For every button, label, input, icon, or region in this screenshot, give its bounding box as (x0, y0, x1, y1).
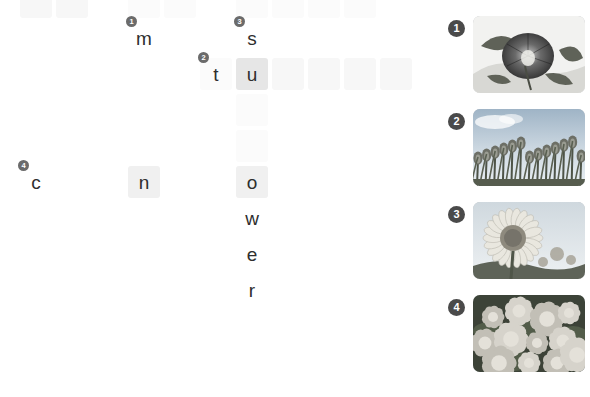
picture-clue-2: 2 (440, 109, 590, 189)
grid-cell-filled[interactable]: r (236, 274, 268, 306)
grid-cell-empty[interactable] (380, 58, 412, 90)
clue-number-badge-3: 3 (234, 16, 245, 27)
cell-letter: w (236, 202, 268, 234)
grid-cell-empty[interactable] (236, 130, 268, 162)
clue-number-badge-4: 4 (18, 160, 29, 171)
cell-letter: n (128, 166, 160, 198)
cell-letter: o (236, 166, 268, 198)
picture-clue-3: 3 (440, 202, 590, 282)
grid-cell-empty[interactable] (344, 0, 376, 18)
grid-cell-empty[interactable] (56, 0, 88, 18)
cell-letter: r (236, 274, 268, 306)
picture-clue-list: 1 2 (440, 0, 590, 397)
picture-clue-1: 1 (440, 16, 590, 96)
grid-cell-empty[interactable] (344, 58, 376, 90)
picture-clue-badge-4: 4 (448, 299, 465, 316)
grid-cell-filled[interactable]: w (236, 202, 268, 234)
picture-clue-badge-3: 3 (448, 206, 465, 223)
tulip-field-photo (473, 109, 585, 186)
cell-letter: u (236, 58, 268, 90)
clue-number-badge-1: 1 (126, 16, 137, 27)
picture-clue-badge-1: 1 (448, 20, 465, 37)
grid-cell-filled[interactable]: e (236, 238, 268, 270)
cell-letter: e (236, 238, 268, 270)
grid-cell-empty[interactable] (308, 58, 340, 90)
grid-cell-empty[interactable] (236, 94, 268, 126)
grid-cell-empty[interactable] (164, 0, 196, 18)
carnations-photo (473, 295, 585, 372)
crossword-grid[interactable]: msutcnower1234 (0, 0, 440, 397)
grid-cell-empty[interactable] (272, 58, 304, 90)
grid-cell-empty[interactable] (272, 0, 304, 18)
picture-clue-4: 4 (440, 295, 590, 375)
grid-cell-empty[interactable] (20, 0, 52, 18)
clue-number-badge-2: 2 (198, 52, 209, 63)
morning-glory-photo (473, 16, 585, 93)
grid-cell-filled[interactable]: o (236, 166, 268, 198)
grid-cell-filled[interactable]: u (236, 58, 268, 90)
sunflower-photo (473, 202, 585, 279)
grid-cell-empty[interactable] (308, 0, 340, 18)
picture-clue-badge-2: 2 (448, 113, 465, 130)
grid-cell-filled[interactable]: n (128, 166, 160, 198)
